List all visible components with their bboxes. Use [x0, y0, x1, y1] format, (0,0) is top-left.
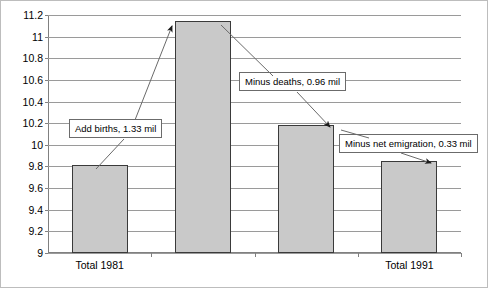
y-axis-tick-mark — [45, 102, 48, 103]
y-axis-tick-label: 10.2 — [23, 118, 43, 128]
bar — [381, 161, 437, 253]
x-axis-tick-mark — [461, 253, 462, 257]
y-axis-tick-label: 11.2 — [23, 10, 43, 20]
y-axis-tick-label: 9.8 — [28, 161, 43, 171]
y-axis-tick-label: 11 — [32, 32, 43, 42]
y-axis-tick-mark — [45, 145, 48, 146]
y-axis-tick-mark — [45, 231, 48, 232]
gridline — [48, 102, 461, 103]
y-axis-tick-mark — [45, 15, 48, 16]
y-axis-tick-label: 9 — [37, 248, 43, 258]
gridline — [48, 15, 461, 16]
x-axis-category-label: Total 1991 — [349, 259, 469, 271]
y-axis-tick-label: 10.8 — [23, 53, 43, 63]
bar — [278, 125, 334, 253]
annotation-add-births: Add births, 1.33 mil — [69, 119, 162, 138]
y-axis-tick-label: 9.4 — [28, 205, 43, 215]
y-axis-tick-label: 9.2 — [28, 226, 43, 236]
y-axis-tick-mark — [45, 58, 48, 59]
y-axis-tick-mark — [45, 123, 48, 124]
x-axis-tick-mark — [255, 253, 256, 257]
annotation-minus-net-emigration: Minus net emigration, 0.33 mil — [339, 134, 478, 153]
x-axis-tick-mark — [358, 253, 359, 257]
x-axis-tick-mark — [151, 253, 152, 257]
gridline — [48, 37, 461, 38]
y-axis-tick-mark — [45, 80, 48, 81]
y-axis-tick-label: 10.4 — [23, 97, 43, 107]
y-axis-tick-mark — [45, 37, 48, 38]
y-axis-tick-mark — [45, 210, 48, 211]
y-axis-tick-mark — [45, 166, 48, 167]
gridline — [48, 58, 461, 59]
y-axis-tick-mark — [45, 253, 48, 254]
y-axis-tick-label: 9.6 — [28, 183, 43, 193]
population-change-bar-chart: 11.21110.810.610.410.2109.89.69.49.29 To… — [0, 0, 488, 288]
bar — [72, 165, 128, 253]
y-axis: 11.21110.810.610.410.2109.89.69.49.29 — [1, 1, 43, 288]
y-axis-tick-label: 10.6 — [23, 75, 43, 85]
y-axis-tick-mark — [45, 188, 48, 189]
y-axis-tick-label: 10 — [31, 140, 43, 150]
bar — [175, 21, 231, 253]
x-axis-category-label: Total 1981 — [40, 259, 160, 271]
annotation-minus-deaths: Minus deaths, 0.96 mil — [239, 72, 346, 91]
